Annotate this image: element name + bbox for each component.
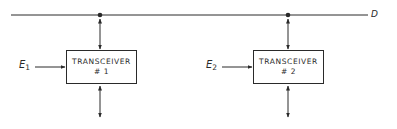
input-label-2: E2	[206, 59, 217, 72]
transceiver-bus-diagram	[0, 0, 397, 129]
input-label-1: E1	[19, 59, 30, 72]
transceiver-1-text: TRANSCEIVER # 1	[66, 57, 137, 77]
junction-dot-2	[286, 13, 291, 18]
transceiver-1-title: TRANSCEIVER	[66, 57, 137, 67]
input-label-1-subscript: 1	[25, 63, 30, 72]
input-label-2-subscript: 2	[212, 63, 217, 72]
bus-label: D	[371, 9, 378, 19]
transceiver-1-number: # 1	[66, 67, 137, 77]
junction-dot-1	[98, 13, 103, 18]
transceiver-2-number: # 2	[253, 67, 324, 77]
transceiver-2-text: TRANSCEIVER # 2	[253, 57, 324, 77]
transceiver-2-title: TRANSCEIVER	[253, 57, 324, 67]
